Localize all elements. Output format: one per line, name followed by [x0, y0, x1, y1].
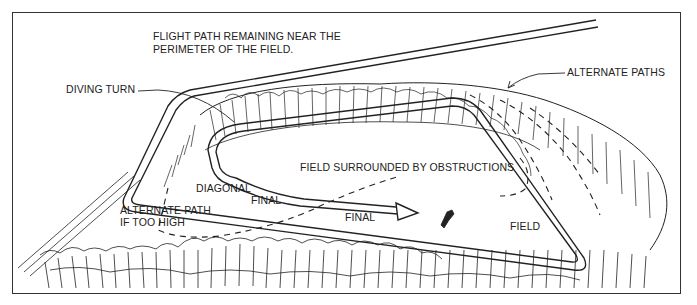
label-diagonal-final: FINAL: [251, 194, 281, 207]
field-approach-diagram: FLIGHT PATH REMAINING NEAR THE PERIMETER…: [0, 0, 697, 305]
label-diving-turn: DIVING TURN: [66, 83, 135, 96]
title-line-1: FLIGHT PATH REMAINING NEAR THE: [153, 30, 341, 43]
aircraft-icon: [441, 210, 454, 228]
label-final: FINAL: [345, 211, 375, 224]
illustration: [0, 0, 697, 305]
label-diagonal: DIAGONAL: [196, 182, 251, 195]
tree-hatching: [164, 86, 650, 218]
label-field: FIELD: [510, 220, 540, 233]
title-line-2: PERIMETER OF THE FIELD.: [153, 43, 293, 56]
label-field-surrounded: FIELD SURROUNDED BY OBSTRUCTIONS: [300, 161, 514, 174]
label-alternate-paths: ALTERNATE PATHS: [567, 66, 665, 79]
tree-line-front: [40, 237, 646, 288]
leaders: [138, 73, 565, 122]
label-if-too-high: IF TOO HIGH: [120, 216, 185, 229]
